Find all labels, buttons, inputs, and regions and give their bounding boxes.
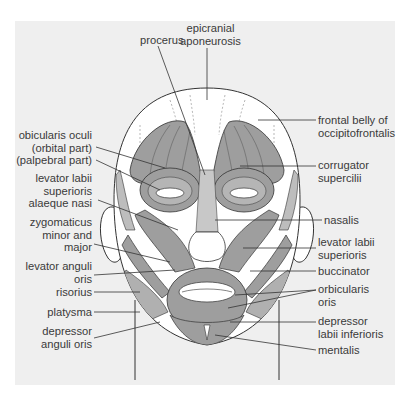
label-levator-labii-superioris: levator labii superioris (318, 236, 375, 261)
label-depressor-anguli-oris: depressor anguli oris (41, 325, 92, 350)
label-buccinator: buccinator (318, 265, 370, 278)
label-risorius: risorius (56, 286, 92, 299)
label-corrugator-supercilii: corrugator supercilii (318, 159, 369, 184)
procerus (196, 170, 218, 232)
label-depressor-labii-inferioris: depressor labii inferioris (318, 315, 383, 340)
nose (189, 232, 226, 262)
label-epicranial-aponeurosis: epicranial aponeurosis (180, 22, 241, 47)
label-platysma: platysma (47, 306, 92, 319)
label-orbicularis-oris: orbicularis oris (318, 283, 369, 308)
label-nasalis: nasalis (324, 214, 359, 227)
label-frontal-belly-occipitofrontalis: frontal belly of occipitofrontalis (318, 114, 395, 139)
label-procerus: procerus (140, 34, 184, 47)
label-levator-anguli-oris: levator anguli oris (25, 260, 92, 285)
label-levator-labii-superioris-alaeque-nasi: levator labii superioris alaeque nasi (29, 172, 92, 210)
label-orbicularis-oculi: obicularis oculi (orbital part) (palpebr… (16, 129, 92, 167)
label-zygomaticus: zygomaticus minor and major (30, 216, 92, 254)
label-mentalis: mentalis (318, 344, 360, 357)
